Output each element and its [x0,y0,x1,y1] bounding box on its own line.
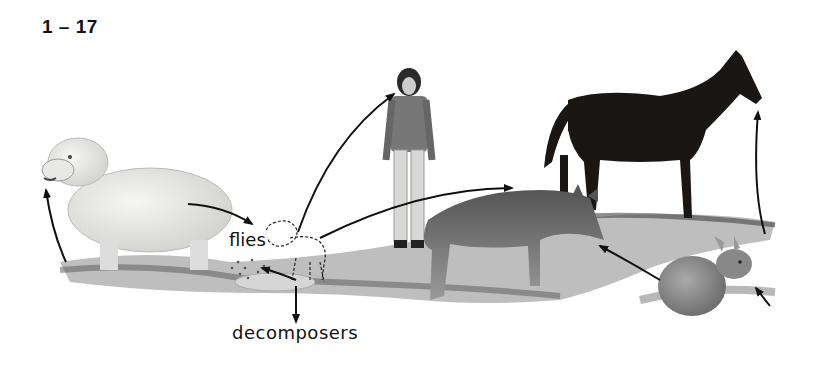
decomposers-label: decomposers [232,322,358,343]
arrow-grass-to-horse [756,112,765,234]
arrow-grass-to-sheep [46,190,66,262]
flies-label: flies [227,229,268,250]
arrow-lamb-to-woman [298,94,394,232]
food-chain-scene [0,0,820,365]
sheep-illustration [42,138,232,270]
